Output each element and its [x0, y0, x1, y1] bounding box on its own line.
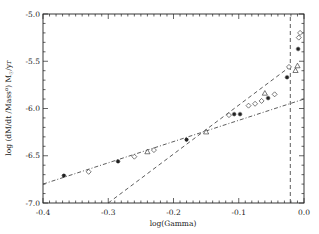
triangle-marker [293, 68, 298, 73]
plot-frame [43, 14, 304, 203]
y-tick-label: -5.0 [26, 10, 41, 19]
fit-line [43, 99, 304, 184]
y-axis-title-mid: ) M [4, 74, 13, 87]
triangle-marker [262, 91, 267, 96]
x-axis-title: log(Gamma) [150, 219, 197, 228]
diamond-marker [296, 35, 301, 40]
axis-ticks [43, 14, 304, 203]
asterisk-marker [61, 173, 66, 178]
asterisk-marker [232, 112, 237, 117]
x-tick-label: 0.0 [298, 208, 310, 217]
y-axis-title-prefix: log (dM/dt /Mass [4, 91, 13, 156]
diamond-marker [253, 101, 258, 106]
asterisk-marker [285, 75, 290, 80]
data-points [61, 30, 302, 178]
fit-lines [43, 14, 304, 203]
y-tick-label: -5.5 [26, 57, 41, 66]
x-tick-label: -0.1 [232, 208, 246, 217]
x-tick-labels: -0.4-0.3-0.2-0.10.0 [36, 208, 310, 217]
y-tick-label: -6.5 [26, 151, 41, 160]
asterisk-marker [296, 47, 301, 52]
diamond-marker [132, 154, 137, 159]
y-tick-labels: -7.0-6.5-6.0-5.5-5.0 [26, 10, 41, 208]
y-axis-title: log (dM/dt /Massα) M☉/yr [3, 60, 14, 156]
asterisk-marker [184, 137, 189, 142]
y-tick-label: -6.0 [26, 104, 41, 113]
diamond-marker [286, 64, 291, 69]
y-tick-label: -7.0 [26, 199, 41, 208]
fit-line [108, 66, 291, 203]
y-axis-title-suffix: /yr [4, 60, 13, 71]
diamond-marker [272, 92, 277, 97]
triangle-marker [295, 63, 300, 68]
asterisk-marker [116, 159, 121, 164]
scatter-chart: -0.4-0.3-0.2-0.10.0 -7.0-6.5-6.0-5.5-5.0… [0, 0, 319, 234]
x-tick-label: -0.4 [36, 208, 51, 217]
asterisk-marker [238, 112, 243, 117]
x-tick-label: -0.3 [101, 208, 116, 217]
x-tick-label: -0.2 [166, 208, 181, 217]
diamond-marker [246, 103, 251, 108]
asterisk-marker [266, 96, 271, 101]
diamond-marker [298, 30, 303, 35]
diamond-marker [259, 98, 264, 103]
